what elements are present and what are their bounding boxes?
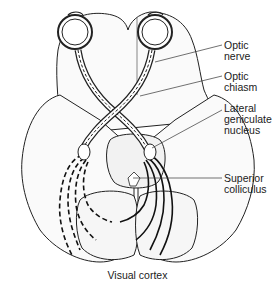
- label-superior-colliculus: Superior colliculus: [224, 173, 267, 195]
- label-line: nucleus: [224, 125, 272, 136]
- left-lgn: [78, 144, 90, 160]
- label-optic-chiasm: Optic chiasm: [224, 71, 257, 93]
- label-line: colliculus: [224, 184, 267, 195]
- label-line: chiasm: [224, 82, 257, 93]
- right-lgn: [144, 144, 156, 160]
- caption-visual-cortex: Visual cortex: [0, 269, 275, 281]
- label-optic-nerve: Optic nerve: [224, 40, 250, 62]
- label-lateral-geniculate-nucleus: Lateral geniculate nucleus: [224, 103, 272, 136]
- label-line: nerve: [224, 51, 250, 62]
